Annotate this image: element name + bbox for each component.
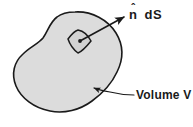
normal-symbol-with-hat: ˆn bbox=[129, 8, 137, 21]
hat-accent-icon: ˆ bbox=[129, 2, 137, 13]
normal-vector-label: ˆndS bbox=[129, 8, 162, 21]
normal-area-symbol: dS bbox=[144, 7, 162, 22]
volume-label: Volume V bbox=[136, 89, 191, 101]
figure-canvas bbox=[0, 0, 193, 127]
physics-figure: ˆndS Volume V bbox=[0, 0, 193, 127]
